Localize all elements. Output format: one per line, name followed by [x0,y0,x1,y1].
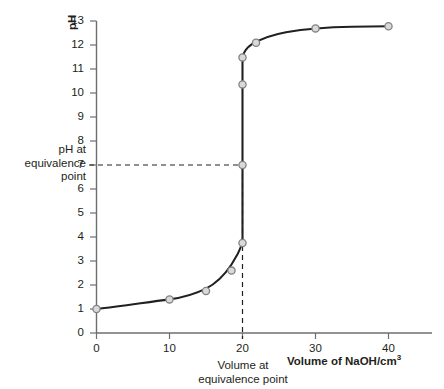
data-point [93,305,100,312]
data-point [252,39,259,46]
x-tick-label-10: 10 [163,343,176,355]
data-point [239,81,246,88]
equivalence-ph-annotation: pH at equivalence point [0,143,86,184]
y-tick-label-4: 4 [54,231,84,243]
data-point [166,296,173,303]
x-tick-label-40: 40 [382,343,395,355]
titration-curve-figure: pH 13 12 11 10 9 8 7 6 5 4 3 2 1 0 0 10 … [0,0,444,389]
y-tick-label-0: 0 [54,327,84,339]
data-point [239,54,246,61]
y-tick-label-2: 2 [54,279,84,291]
data-point [228,267,235,274]
equivalence-volume-line-1: Volume at [167,359,319,373]
y-tick-label-3: 3 [54,255,84,267]
x-tick-label-0: 0 [93,343,99,355]
y-tick-label-10: 10 [54,87,84,99]
y-tick-label-5: 5 [54,207,84,219]
equivalence-volume-line-2: equivalence point [167,373,319,387]
data-point [239,239,246,246]
equivalence-ph-line-2: equivalence [0,157,86,171]
x-tick-label-30: 30 [309,343,322,355]
y-tick-label-11: 11 [54,63,84,75]
equivalence-ph-line-1: pH at [0,143,86,157]
data-point [385,23,392,30]
x-tick-label-20: 20 [236,343,249,355]
data-point [312,25,319,32]
y-tick-label-1: 1 [54,303,84,315]
y-tick-label-12: 12 [54,39,84,51]
y-tick-label-13: 13 [54,15,84,27]
y-axis-ticks [90,21,97,333]
equivalence-volume-annotation: Volume at equivalence point [167,359,319,386]
data-point-equivalence [239,161,246,168]
data-point [202,287,209,294]
y-tick-label-6: 6 [54,183,84,195]
equivalence-ph-line-3: point [0,170,86,184]
x-axis-title-superscript: 3 [397,353,401,362]
y-tick-label-9: 9 [54,111,84,123]
